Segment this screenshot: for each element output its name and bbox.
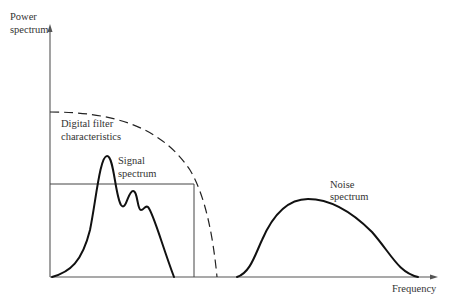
y-axis-label-line2: spectrum [10, 24, 49, 35]
x-axis-arrow-icon [430, 275, 438, 280]
filter-label-line2: characteristics [61, 131, 121, 142]
signal-label-line1: Signal [118, 155, 145, 166]
noise-label-line1: Noise [330, 179, 355, 190]
x-axis-label: Frequency [392, 283, 437, 294]
noise-label-line2: spectrum [330, 191, 369, 202]
filter-label-line1: Digital filter [61, 118, 114, 129]
ideal-filter-box [50, 184, 194, 277]
power-spectrum-diagram: Power spectrum Frequency Digital filter … [0, 0, 449, 305]
signal-label-line2: spectrum [118, 168, 157, 179]
y-axis-label-line1: Power [10, 11, 37, 22]
noise-spectrum-curve [237, 199, 418, 277]
